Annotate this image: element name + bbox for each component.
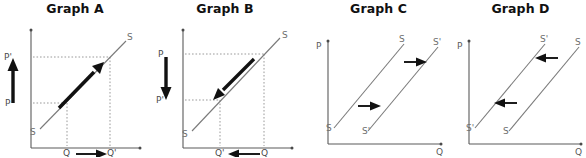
- graph-a-y-axis-tip: [30, 29, 33, 32]
- graph-d-curve-label-s-prime-bottom: S': [466, 123, 474, 133]
- graph-b-price-label-upper: P: [158, 49, 164, 59]
- graph-d-y-axis-tip: [468, 40, 471, 43]
- graph-b-quantity-label-left: Q': [215, 148, 225, 157]
- graph-b-price-arrow: [161, 57, 172, 100]
- graph-b-movement-arrow: [213, 59, 254, 100]
- graph-b-plot: S S P P' Q' Q: [150, 0, 300, 157]
- graph-panel-d: Graph D P Q S': [443, 0, 586, 157]
- graph-panel-a: Graph A: [0, 0, 150, 157]
- graph-c-plot: P Q S S S' S': [300, 0, 443, 157]
- graph-d-plot: P Q S' S' S S: [443, 0, 586, 157]
- graph-b-quantity-arrow: [228, 150, 260, 158]
- graph-d-curve-label-s-prime-top: S': [540, 34, 548, 44]
- graph-c-curve-label-s-prime-bottom: S': [362, 126, 370, 136]
- graph-b-y-axis-tip: [182, 29, 185, 32]
- graph-a-quantity-label-left: Q: [63, 148, 70, 157]
- supply-curve-figure: Graph A: [0, 0, 586, 157]
- graph-b-price-label-lower: P': [156, 95, 164, 105]
- graph-c-curve-label-s-prime-top: S': [433, 37, 441, 47]
- graph-b-supply-curve: [192, 38, 280, 131]
- graph-d-axis-y-label: P: [457, 41, 463, 51]
- graph-a-quantity-label-right: Q': [107, 148, 117, 157]
- graph-b-curve-label-top: S: [282, 30, 288, 40]
- graph-panel-b: Graph B: [150, 0, 300, 157]
- graph-a-curve-label-top: S: [127, 32, 133, 42]
- graph-a-x-axis-tip: [139, 147, 142, 150]
- graph-c-curve-label-s-top: S: [399, 34, 405, 44]
- graph-d-shift-arrow-upper: [535, 54, 558, 63]
- graph-b-x-axis-tip: [291, 147, 294, 150]
- graph-c-supply-curve-s: [334, 44, 404, 128]
- graph-b-quantity-label-right: Q: [261, 148, 268, 157]
- graph-d-curve-label-s-bottom: S: [503, 126, 509, 136]
- graph-a-price-label-lower: P: [5, 98, 11, 108]
- graph-a-price-arrow: [8, 58, 19, 103]
- graph-d-x-axis-tip: [580, 143, 583, 146]
- graph-b-curve-label-bottom: S: [182, 129, 188, 139]
- graph-c-axis-y-label: P: [316, 41, 322, 51]
- graph-d-curve-label-s-top: S: [575, 37, 581, 47]
- graph-d-shift-arrow-lower: [494, 99, 517, 108]
- graph-c-y-axis-tip: [327, 40, 330, 43]
- graph-a-curve-label-bottom: S: [30, 127, 36, 137]
- graph-a-quantity-arrow: [76, 150, 107, 158]
- graph-c-supply-curve-s-prime: [368, 47, 438, 131]
- graph-d-axis-x-label: Q: [575, 147, 582, 157]
- graph-d-supply-curve-s-prime: [475, 44, 545, 128]
- graph-a-movement-arrow: [59, 62, 104, 108]
- graph-panel-c: Graph C P Q S: [300, 0, 443, 157]
- graph-c-curve-label-s-bottom: S: [326, 123, 332, 133]
- graph-a-price-label-upper: P': [4, 52, 12, 62]
- graph-c-shift-arrow-lower: [358, 102, 381, 111]
- graph-a-plot: S S P' P Q Q': [0, 0, 150, 157]
